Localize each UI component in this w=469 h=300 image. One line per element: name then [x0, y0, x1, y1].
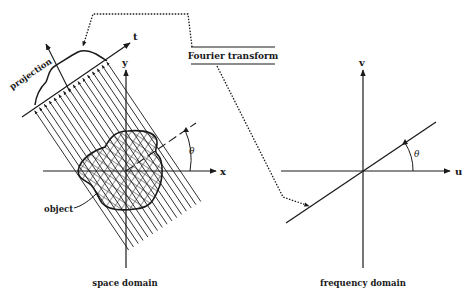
dotted-arrow-to-slice — [217, 66, 309, 206]
object-label: object — [44, 204, 73, 214]
t-axis-label: t — [133, 31, 138, 42]
u-axis-label: u — [455, 166, 462, 177]
frequency-domain-caption: frequency domain — [320, 278, 406, 288]
theta-label-space: θ — [189, 146, 195, 156]
space-domain-panel: x y t projection θ object space domain — [8, 31, 227, 288]
v-axis-label: v — [358, 57, 366, 68]
y-axis-label: y — [121, 57, 129, 68]
projection-label: projection — [8, 56, 54, 92]
fourier-transform-label: Fourier transform — [188, 51, 279, 61]
x-axis-label: x — [220, 166, 227, 177]
space-domain-caption: space domain — [92, 278, 157, 288]
projection-axis — [46, 44, 70, 92]
object-blob — [70, 120, 170, 220]
theta-label-freq: θ — [414, 149, 420, 159]
fourier-slice-diagram: x y t projection θ object space domain F… — [0, 0, 469, 300]
central-slice-line — [286, 122, 436, 223]
theta-arc-freq — [405, 143, 413, 171]
t-axis — [22, 43, 130, 117]
frequency-domain-panel: u v θ frequency domain — [281, 57, 462, 288]
